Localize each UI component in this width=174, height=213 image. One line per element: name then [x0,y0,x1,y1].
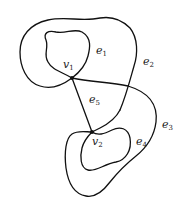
label-e2-sub: 2 [150,61,154,69]
graph-diagram [0,0,174,213]
label-e3-sub: 3 [169,124,173,132]
vertex-v1 [70,76,74,80]
label-e1-sub: 1 [103,50,107,58]
label-e1: e1 [96,45,107,58]
label-e3: e3 [162,119,173,132]
label-e5-sub: 5 [96,99,100,107]
label-e4: e4 [136,136,147,149]
label-e2: e2 [143,56,154,69]
label-e4-sub: 4 [143,141,147,149]
edge-e4-loop [81,128,130,170]
label-e5: e5 [89,94,100,107]
label-v1: v1 [63,59,74,72]
label-v2: v2 [92,136,103,149]
vertex-v2 [90,130,94,134]
label-v1-sub: 1 [69,64,73,72]
label-v2-sub: 2 [98,141,102,149]
